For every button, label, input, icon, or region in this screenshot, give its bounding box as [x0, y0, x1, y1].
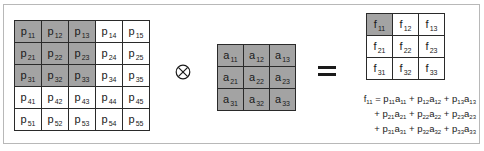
equals-sign-icon	[318, 66, 336, 78]
matrix-cell-f13: f13	[419, 14, 445, 36]
matrix-cell-p41: p41	[15, 87, 42, 109]
matrix-cell-p52: p52	[42, 109, 69, 131]
matrix-cell-a21: a21	[218, 67, 244, 89]
matrix-cell-f33: f33	[419, 58, 445, 80]
matrix-cell-p31: p31	[15, 65, 42, 87]
matrix-cell-f23: f23	[419, 36, 445, 58]
formula-line-2: + p21a21 + p22a22 + p23a23	[346, 108, 476, 123]
matrix-cell-a32: a32	[244, 89, 270, 111]
matrix-cell-p55: p55	[123, 109, 150, 131]
convolution-formula: f11 = p11a11 + p12a12 + p13a13+ p21a21 +…	[346, 93, 476, 138]
matrix-cell-p35: p35	[123, 65, 150, 87]
input-matrix-p: p11p12p13p14p15p21p22p23p24p25p31p32p33p…	[14, 20, 150, 131]
matrix-cell-p12: p12	[42, 21, 69, 43]
convolution-operator-icon	[175, 64, 191, 80]
matrix-cell-p43: p43	[69, 87, 96, 109]
matrix-cell-p45: p45	[123, 87, 150, 109]
matrix-cell-p22: p22	[42, 43, 69, 65]
formula-line-1: f11 = p11a11 + p12a12 + p13a13	[346, 93, 476, 108]
matrix-cell-a33: a33	[270, 89, 296, 111]
matrix-cell-a12: a12	[244, 45, 270, 67]
matrix-cell-p51: p51	[15, 109, 42, 131]
matrix-cell-p11: p11	[15, 21, 42, 43]
matrix-cell-a23: a23	[270, 67, 296, 89]
matrix-cell-p15: p15	[123, 21, 150, 43]
matrix-cell-p21: p21	[15, 43, 42, 65]
matrix-cell-f12: f12	[393, 14, 419, 36]
matrix-cell-f32: f32	[393, 58, 419, 80]
matrix-cell-p44: p44	[96, 87, 123, 109]
matrix-cell-p14: p14	[96, 21, 123, 43]
matrix-cell-f11: f11	[367, 14, 393, 36]
matrix-cell-p25: p25	[123, 43, 150, 65]
kernel-matrix-a: a11a12a13a21a22a23a31a32a33	[217, 44, 296, 111]
matrix-cell-a22: a22	[244, 67, 270, 89]
matrix-cell-p23: p23	[69, 43, 96, 65]
matrix-cell-a31: a31	[218, 89, 244, 111]
matrix-cell-f21: f21	[367, 36, 393, 58]
matrix-cell-p34: p34	[96, 65, 123, 87]
matrix-cell-f22: f22	[393, 36, 419, 58]
matrix-cell-a11: a11	[218, 45, 244, 67]
formula-line-3: + p31a31 + p32a32 + p33a33	[346, 123, 476, 138]
matrix-cell-p33: p33	[69, 65, 96, 87]
matrix-cell-a13: a13	[270, 45, 296, 67]
matrix-cell-f31: f31	[367, 58, 393, 80]
matrix-cell-p32: p32	[42, 65, 69, 87]
output-matrix-f: f11f12f13f21f22f23f31f32f33	[366, 13, 445, 80]
matrix-cell-p24: p24	[96, 43, 123, 65]
matrix-cell-p54: p54	[96, 109, 123, 131]
matrix-cell-p13: p13	[69, 21, 96, 43]
matrix-cell-p42: p42	[42, 87, 69, 109]
matrix-cell-p53: p53	[69, 109, 96, 131]
